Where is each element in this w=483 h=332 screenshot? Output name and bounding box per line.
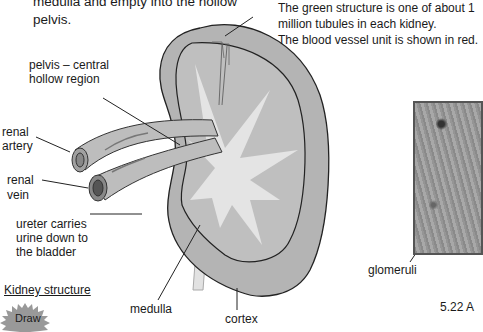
glomeruli-micrograph	[413, 101, 483, 255]
intro-text-line2: pelvis.	[33, 11, 71, 28]
label-glomeruli: glomeruli	[368, 263, 417, 277]
note-line3: The blood vessel unit is shown in red.	[278, 33, 478, 47]
label-vein-line2: vein	[7, 188, 29, 202]
note-line2: million tubules in each kidney.	[278, 17, 437, 31]
label-pelvis-line2: hollow region	[29, 72, 100, 86]
label-medulla: medulla	[130, 302, 172, 316]
note-line1: The green structure is one of about 1	[278, 1, 475, 15]
draw-button-label: Draw	[15, 312, 41, 324]
label-vein-line1: renal	[7, 173, 34, 187]
label-cortex: cortex	[225, 312, 258, 326]
intro-text-line1: medulla and empty into the hollow	[33, 0, 237, 10]
label-artery-line2: artery	[2, 139, 33, 153]
label-ureter-line3: the bladder	[16, 245, 76, 259]
section-title: Kidney structure	[4, 283, 91, 297]
label-pelvis-line1: pelvis – central	[29, 58, 109, 72]
label-artery-line1: renal	[2, 125, 29, 139]
label-ureter-line1: ureter carries	[16, 217, 87, 231]
figure-caption: 5.22 A	[440, 300, 474, 314]
label-ureter-line2: urine down to	[16, 231, 88, 245]
